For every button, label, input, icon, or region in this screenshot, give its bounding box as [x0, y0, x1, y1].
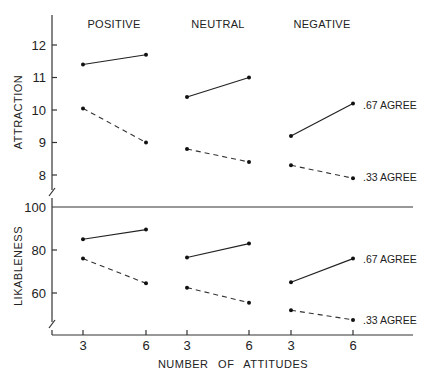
data-point [247, 160, 251, 164]
series-segment [187, 78, 249, 98]
x-tick-label: 3 [287, 338, 294, 353]
series-segment [291, 165, 353, 178]
series-segment [187, 288, 249, 303]
x-tick-label: 3 [79, 338, 86, 353]
legend-dashed-top: .33 AGREE [363, 171, 417, 183]
data-point [351, 176, 355, 180]
series-segment [291, 259, 353, 283]
data-point [144, 141, 148, 145]
data-point [185, 256, 189, 260]
data-point [81, 63, 85, 67]
data-point [289, 163, 293, 167]
y-tick-label: 100 [24, 200, 46, 215]
group-label-neutral: NEUTRAL [191, 18, 244, 30]
y-tick-label: 9 [39, 135, 46, 150]
group-label-positive: POSITIVE [87, 18, 140, 30]
data-point [289, 280, 293, 284]
series-segment [187, 149, 249, 162]
series-segment [291, 310, 353, 320]
x-tick-label: 6 [349, 338, 356, 353]
series-segment [291, 104, 353, 137]
x-tick-label: 6 [142, 338, 149, 353]
y-tick-label: 60 [32, 286, 46, 301]
data-point [144, 281, 148, 285]
y-tick-label: 10 [32, 103, 46, 118]
data-point [351, 318, 355, 322]
data-point [185, 286, 189, 290]
attitude-similarity-chart: 89101112 6080100 363636 POSITIVE NEUTRAL… [0, 0, 430, 380]
x-tick-label: 3 [183, 338, 190, 353]
data-point [185, 95, 189, 99]
data-point [289, 134, 293, 138]
data-point [247, 301, 251, 305]
data-point [185, 147, 189, 151]
data-point [144, 53, 148, 57]
data-point [144, 228, 148, 232]
data-point [351, 257, 355, 261]
data-point [289, 308, 293, 312]
y-tick-label: 12 [32, 38, 46, 53]
data-point [81, 237, 85, 241]
legend-dashed-bottom: .33 AGREE [363, 314, 417, 326]
series-segment [83, 259, 146, 284]
y-tick-label: 8 [39, 168, 46, 183]
x-tick-label: 6 [245, 338, 252, 353]
x-ticks: 363636 [79, 330, 356, 353]
data-point [81, 257, 85, 261]
axes [49, 15, 413, 335]
series-segment [187, 244, 249, 258]
legend-solid-top: .67 AGREE [363, 99, 417, 111]
series-segment [83, 230, 146, 240]
group-label-negative: NEGATIVE [293, 18, 350, 30]
legend-solid-bottom: .67 AGREE [363, 253, 417, 265]
series-segment [83, 55, 146, 65]
y-axis-title-attraction: ATTRACTION [12, 75, 24, 149]
y-tick-label: 11 [33, 70, 47, 85]
series-segment [83, 108, 146, 142]
y-tick-label: 80 [32, 243, 46, 258]
y-axis-title-likableness: LIKABLENESS [12, 226, 24, 306]
data-point [351, 102, 355, 106]
data-point [247, 242, 251, 246]
data-point [81, 106, 85, 110]
data-point [247, 76, 251, 80]
y-ticks-attraction: 89101112 [32, 38, 57, 183]
x-axis-title: NUMBER OF ATTITUDES [158, 358, 308, 370]
series-layer [81, 53, 355, 322]
